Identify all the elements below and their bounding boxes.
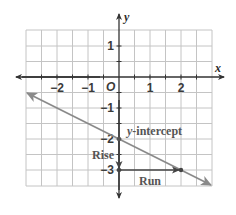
graph-line [27,93,110,135]
x-tick-label: −2 [50,81,64,95]
y-intercept-point [117,137,121,141]
y-tick-label: −3 [100,163,114,177]
run-end-point [179,168,183,172]
x-tick-label: 2 [178,81,185,95]
y-tick-label: −2 [100,132,114,146]
rise-label: Rise [92,148,115,162]
coordinate-plane: x y O −2 −1 1 2 1 −1 −2 −3 y-intercept R… [0,0,236,215]
y-intercept-label: y-intercept [125,124,182,138]
y-axis-label: y [122,10,130,24]
rise-end-point [117,168,121,172]
run-label: Run [139,174,161,188]
y-intercept-label-text: -intercept [132,124,182,138]
x-axis-label: x [214,61,221,75]
y-tick-label: 1 [107,39,114,53]
origin-label: O [106,80,116,94]
x-tick-label: −1 [81,81,95,95]
x-tick-label: 1 [147,81,154,95]
y-tick-label: −1 [100,101,114,115]
